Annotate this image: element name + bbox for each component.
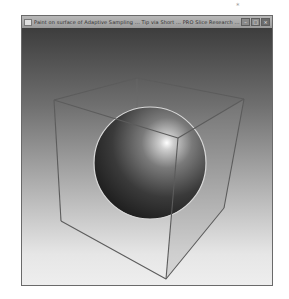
close-button[interactable]: × [261,18,270,26]
maximize-button[interactable]: □ [251,18,260,26]
3d-viewport[interactable] [22,28,272,285]
scene-canvas[interactable] [22,28,272,285]
window-title: Paint on surface of Adaptive Sampling ..… [34,19,241,25]
window-controls: – □ × [241,18,270,26]
corner-mark: * [236,2,240,10]
app-window: Paint on surface of Adaptive Sampling ..… [21,15,273,286]
minimize-button[interactable]: – [241,18,250,26]
title-bar[interactable]: Paint on surface of Adaptive Sampling ..… [22,16,272,28]
app-icon [24,19,32,26]
sphere [94,107,206,219]
